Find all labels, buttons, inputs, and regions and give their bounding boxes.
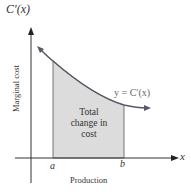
y-axis-title: Marginal cost [11, 65, 21, 112]
region-label: Total change in cost [66, 107, 112, 140]
diagram-canvas [0, 0, 191, 196]
x-axis-label: x [180, 150, 185, 162]
curve-end-arrow-icon [144, 105, 151, 111]
curve-label: y = C′(x) [114, 87, 150, 98]
y-axis-label: C′(x) [6, 2, 30, 17]
y-axis-arrow-icon [28, 27, 34, 35]
lower-bound-label: a [50, 160, 55, 171]
x-axis-title: Production [70, 175, 107, 185]
marginal-cost-diagram: C′(x) x y = C′(x) a b Production Margina… [0, 0, 191, 196]
upper-bound-label: b [120, 158, 125, 169]
x-axis-arrow-icon [171, 155, 179, 161]
